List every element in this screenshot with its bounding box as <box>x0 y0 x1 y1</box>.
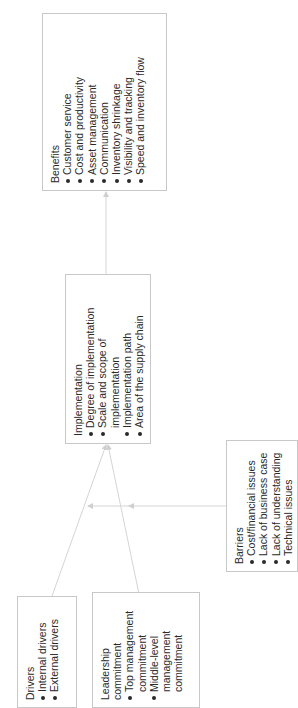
implementation-box: Implementation Degree of implementation … <box>65 274 151 444</box>
leadership-box: Leadership commitment Top management com… <box>92 592 200 708</box>
list-item: Top management commitment <box>123 596 147 700</box>
list-item: Lack of understanding <box>270 443 282 564</box>
list-item: Inventory shrinkage <box>110 16 122 183</box>
leadership-list: Top management commitment Middle-level m… <box>123 595 184 700</box>
list-item: Area of the supply chain <box>133 277 145 436</box>
implementation-list: Degree of implementation Scale and scope… <box>84 277 145 436</box>
list-item: Internal drivers <box>36 599 48 700</box>
implementation-title: Implementation <box>72 277 84 436</box>
list-item: Communication <box>98 16 110 183</box>
list-item: Asset management <box>86 16 98 183</box>
drivers-list: Internal drivers External drivers <box>36 599 60 700</box>
benefits-list: Customer service Cost and productivity A… <box>61 16 146 183</box>
list-item: Cost/financial issues <box>245 443 257 564</box>
list-item: External drivers <box>48 599 60 700</box>
list-item: Cost and productivity <box>73 16 85 183</box>
list-item: Lack of business case <box>257 443 269 564</box>
drivers-box: Drivers Internal drivers External driver… <box>17 596 77 708</box>
list-item: Implementation path <box>121 277 133 436</box>
list-item: Degree of implementation <box>84 277 96 436</box>
list-item: Technical issues <box>282 443 294 564</box>
list-item: Customer service <box>61 16 73 183</box>
drivers-title: Drivers <box>24 599 36 700</box>
arrowhead-barriers-right <box>128 503 134 509</box>
barriers-title: Barriers <box>233 443 245 564</box>
barriers-box: Barriers Cost/financial issues Lack of b… <box>226 440 298 572</box>
list-item: Visibility and tracking <box>122 16 134 183</box>
arrow-leadership-to-implementation <box>108 445 139 594</box>
list-item: Speed and inventory flow <box>134 16 146 183</box>
benefits-title: Benefits <box>49 16 61 183</box>
arrow-drivers-to-implementation <box>52 445 106 596</box>
benefits-box: Benefits Customer service Cost and produ… <box>42 13 167 191</box>
list-item: Middle-level management commitment <box>148 612 185 700</box>
leadership-title: Leadership commitment <box>99 630 123 700</box>
barriers-list: Cost/financial issues Lack of business c… <box>245 443 294 564</box>
list-item: Scale and scope of implementation <box>96 308 120 436</box>
